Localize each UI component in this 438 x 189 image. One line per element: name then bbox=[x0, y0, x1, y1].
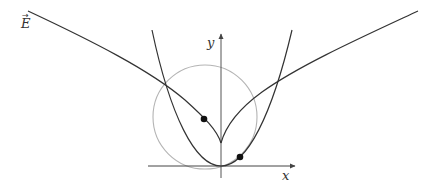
point-on-parabola bbox=[237, 154, 244, 161]
point-on-cusp-curve bbox=[201, 116, 208, 123]
cusp-curve-left bbox=[28, 11, 221, 143]
y-axis-label: y bbox=[206, 35, 215, 50]
diagram-canvas: E → y x bbox=[0, 0, 438, 189]
x-axis-label: x bbox=[282, 168, 290, 183]
field-arrow-icon: → bbox=[22, 11, 29, 20]
parabola bbox=[152, 30, 292, 166]
cusp-curve-right bbox=[221, 11, 418, 143]
